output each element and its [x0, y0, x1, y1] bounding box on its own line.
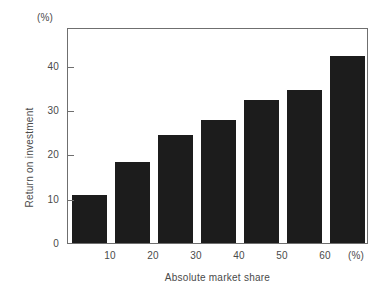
x-tick-label: 40: [226, 250, 252, 261]
bar: [287, 90, 322, 243]
y-tick-mark: [67, 155, 74, 156]
bar: [244, 100, 279, 243]
x-tick-label: 20: [140, 250, 166, 261]
x-tick-label: 50: [269, 250, 295, 261]
y-tick-mark: [67, 67, 74, 68]
x-tick-label: 10: [97, 250, 123, 261]
y-tick-mark: [67, 111, 74, 112]
bar: [158, 135, 193, 243]
bar: [115, 162, 150, 243]
bar: [201, 120, 236, 243]
x-axis-unit-label: (%): [348, 250, 364, 261]
bars-layer: [68, 29, 367, 243]
x-axis-title: Absolute market share: [67, 272, 368, 283]
bar: [330, 56, 365, 243]
y-tick-label: 20: [33, 149, 59, 160]
x-tick-label: 30: [183, 250, 209, 261]
y-axis-unit-label: (%): [37, 12, 53, 23]
y-tick-mark: [67, 200, 74, 201]
bar-chart: (%) Return on investment 010203040 10203…: [0, 0, 387, 302]
x-tick-label: 60: [312, 250, 338, 261]
y-tick-label: 10: [33, 194, 59, 205]
bar: [72, 195, 107, 243]
plot-area: [67, 28, 368, 244]
y-tick-label: 0: [33, 238, 59, 249]
y-tick-label: 40: [33, 61, 59, 72]
y-tick-label: 30: [33, 105, 59, 116]
